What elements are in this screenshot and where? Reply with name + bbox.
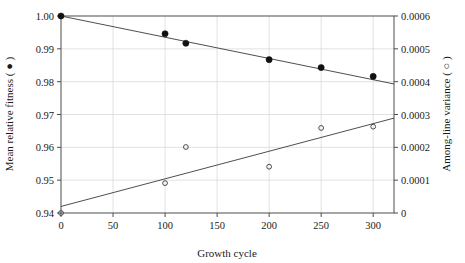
x-axis-label: Growth cycle	[197, 247, 257, 259]
x-tick-label: 0	[58, 220, 63, 231]
trend-line-variance-trend	[61, 118, 394, 206]
data-point-fitness	[58, 13, 64, 19]
y2-axis-ticks: 00.00010.00020.00030.00040.00050.0006	[394, 11, 431, 219]
x-axis-ticks: 050100150200250300	[58, 213, 381, 231]
y2-tick-label: 0.0003	[401, 110, 430, 121]
trend-line-fitness-trend	[61, 16, 394, 84]
x-tick-label: 50	[108, 220, 119, 231]
y-axis-ticks: 0.940.950.960.970.980.991.00	[36, 11, 61, 219]
y2-tick-label: 0.0002	[401, 142, 430, 153]
y-tick-label: 0.99	[36, 44, 54, 55]
y-tick-label: 0.94	[36, 208, 55, 219]
data-point-fitness	[370, 73, 376, 79]
x-tick-label: 150	[209, 220, 225, 231]
y-tick-label: 0.95	[36, 175, 54, 186]
figure-container: 050100150200250300 0.940.950.960.970.980…	[0, 0, 465, 263]
y-tick-label: 0.97	[36, 110, 54, 121]
x-tick-label: 200	[261, 220, 277, 231]
trend-lines-group	[61, 16, 394, 206]
y-tick-label: 0.98	[36, 77, 54, 88]
y2-tick-label: 0.0005	[401, 44, 430, 55]
x-tick-label: 250	[313, 220, 329, 231]
data-point-fitness	[183, 40, 189, 46]
y2-tick-label: 0.0001	[401, 175, 430, 186]
x-tick-label: 300	[365, 220, 381, 231]
y-tick-label: 0.96	[36, 142, 54, 153]
gridlines-group	[61, 16, 394, 213]
data-point-fitness	[162, 31, 168, 37]
y2-tick-label: 0.0004	[401, 77, 431, 88]
scatter-chart: 050100150200250300 0.940.950.960.970.980…	[0, 0, 465, 263]
y-tick-label: 1.00	[36, 11, 54, 22]
y2-tick-label: 0	[401, 208, 406, 219]
x-tick-label: 100	[157, 220, 173, 231]
y2-axis-label: Among-line variance ( ○ )	[440, 56, 453, 172]
data-point-fitness	[318, 64, 324, 70]
y-axis-label: Mean relative fitness ( ● )	[3, 56, 16, 171]
data-point-fitness	[266, 57, 272, 63]
y2-tick-label: 0.0006	[401, 11, 430, 22]
